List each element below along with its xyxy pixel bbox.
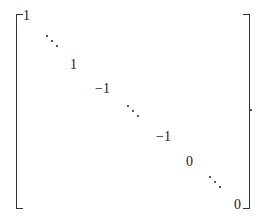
matrix-entry-5: 0 (186, 155, 193, 169)
matrix-entry-1: 1 (23, 9, 30, 23)
matrix-entry-6: 0 (234, 198, 241, 212)
trailing-period (250, 109, 252, 111)
matrix-entry-3: −1 (95, 82, 110, 96)
diagonal-matrix: 1 1 −1 −1 0 0 (0, 0, 257, 219)
matrix-entry-2: 1 (70, 58, 77, 72)
left-bracket (16, 14, 23, 209)
diagonal-dots-2 (126, 104, 140, 118)
matrix-entry-4: −1 (156, 130, 171, 144)
right-bracket (243, 14, 250, 209)
diagonal-dots-1 (44, 33, 58, 47)
diagonal-dots-3 (208, 175, 222, 189)
